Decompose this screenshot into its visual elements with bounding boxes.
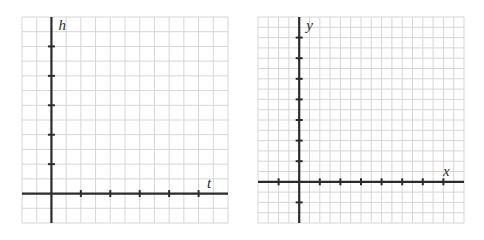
height-vs-time-grid: h t bbox=[22, 17, 228, 223]
x-axis-label: x bbox=[442, 163, 450, 179]
axis-ticks bbox=[48, 46, 199, 197]
xy-coordinate-grid: y x bbox=[258, 17, 464, 223]
y-axis-label: y bbox=[304, 17, 313, 33]
x-axis-label: t bbox=[207, 175, 212, 191]
grid-lines bbox=[22, 17, 228, 223]
graph-paper-canvas: h t y x bbox=[0, 0, 484, 240]
y-axis-label: h bbox=[58, 17, 66, 33]
grid-lines bbox=[258, 17, 464, 223]
